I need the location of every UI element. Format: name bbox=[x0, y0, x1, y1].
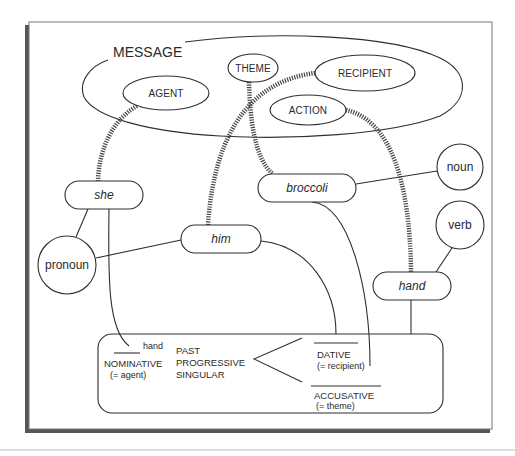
feature-aspect: PROGRESSIVE bbox=[176, 357, 245, 368]
lemma-hand: hand bbox=[373, 272, 451, 300]
nominative-gloss: (= agent) bbox=[110, 370, 146, 380]
role-theme-label: THEME bbox=[235, 63, 271, 74]
role-agent-label: AGENT bbox=[149, 88, 184, 99]
lemma-hand-label: hand bbox=[399, 279, 426, 293]
role-theme: THEME bbox=[228, 54, 278, 82]
feature-tense: PAST bbox=[176, 345, 200, 356]
category-pronoun-label: pronoun bbox=[45, 258, 89, 272]
lemma-him-label: him bbox=[211, 232, 230, 246]
lemma-she: she bbox=[65, 181, 143, 209]
language-production-diagram: MESSAGE AGENT THEME RECIPIENT bbox=[0, 0, 515, 456]
figure-frame bbox=[25, 22, 492, 433]
dative-label: DATIVE bbox=[317, 349, 351, 360]
nominative-label: NOMINATIVE bbox=[104, 358, 162, 369]
role-action: ACTION bbox=[270, 95, 346, 125]
role-recipient-label: RECIPIENT bbox=[338, 68, 392, 79]
feature-number: SINGULAR bbox=[176, 369, 225, 380]
category-noun-label: noun bbox=[447, 160, 474, 174]
category-verb-label: verb bbox=[448, 218, 472, 232]
category-verb: verb bbox=[436, 201, 484, 249]
accusative-gloss: (= theme) bbox=[316, 401, 355, 411]
lemma-broccoli: broccoli bbox=[258, 174, 356, 202]
message-title: MESSAGE bbox=[113, 44, 182, 60]
verb-slot-label: hand bbox=[143, 341, 163, 351]
role-recipient: RECIPIENT bbox=[315, 55, 415, 91]
category-noun: noun bbox=[437, 144, 483, 190]
lemma-she-label: she bbox=[94, 188, 114, 202]
role-action-label: ACTION bbox=[289, 105, 327, 116]
lemma-broccoli-label: broccoli bbox=[286, 181, 328, 195]
accusative-label: ACCUSATIVE bbox=[314, 390, 374, 401]
role-agent: AGENT bbox=[123, 76, 209, 110]
dative-gloss: (= recipient) bbox=[317, 361, 365, 371]
category-pronoun: pronoun bbox=[38, 236, 96, 294]
lemma-him: him bbox=[181, 225, 261, 253]
